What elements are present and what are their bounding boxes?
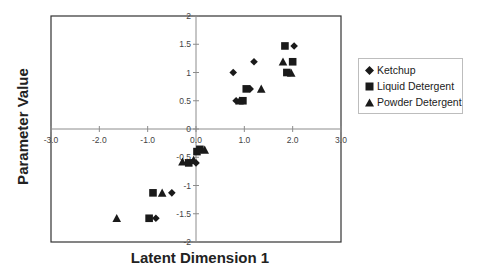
x-tick-label: 0.0 [190, 135, 202, 145]
y-tick-label: 0.5 [179, 96, 191, 106]
x-tick-label: -2.0 [92, 135, 107, 145]
square-marker [281, 42, 289, 50]
triangle-marker [279, 57, 288, 65]
plot-area: -3.0-2.0-1.00.01.02.03.0-2-1.5-1-0.500.5… [0, 0, 481, 274]
legend-item-powder-detergent: Powder Detergent [365, 94, 462, 110]
y-axis-label: Parameter Value [14, 47, 31, 207]
legend-label: Ketchup [377, 64, 416, 76]
legend: Ketchup Liquid Detergent Powder Detergen… [358, 58, 463, 114]
square-marker [289, 58, 297, 66]
legend-label: Liquid Detergent [377, 80, 454, 92]
square-marker [242, 85, 250, 93]
x-tick-label: 3.0 [335, 135, 347, 145]
y-tick-label: -2 [183, 237, 191, 247]
y-tick-label: 0 [186, 124, 191, 134]
legend-item-liquid-detergent: Liquid Detergent [365, 78, 462, 94]
scatter-chart: -3.0-2.0-1.00.01.02.03.0-2-1.5-1-0.500.5… [0, 0, 481, 274]
legend-label: Powder Detergent [377, 96, 462, 108]
square-marker [149, 189, 157, 197]
square-marker [145, 214, 153, 222]
triangle-marker [158, 189, 167, 197]
legend-item-ketchup: Ketchup [365, 62, 462, 78]
y-tick-label: -1.5 [176, 209, 191, 219]
triangle-marker-icon [365, 98, 374, 107]
x-tick-label: -1.0 [140, 135, 155, 145]
y-tick-label: 2 [186, 11, 191, 21]
diamond-marker [168, 189, 176, 197]
diamond-marker [290, 42, 298, 50]
y-tick-label: 1.5 [179, 39, 191, 49]
square-marker-icon [365, 82, 374, 91]
x-tick-label: -3.0 [44, 135, 59, 145]
x-tick-label: 2.0 [287, 135, 299, 145]
diamond-marker-icon [365, 66, 374, 75]
diamond-marker [229, 69, 237, 77]
triangle-marker [112, 214, 121, 222]
x-axis-label: Latent Dimension 1 [100, 249, 300, 266]
x-tick-label: 1.0 [238, 135, 250, 145]
diamond-marker [250, 58, 258, 66]
triangle-marker [257, 85, 266, 93]
diamond-marker [152, 214, 160, 222]
y-tick-label: -1 [183, 181, 191, 191]
y-tick-label: 1 [186, 68, 191, 78]
